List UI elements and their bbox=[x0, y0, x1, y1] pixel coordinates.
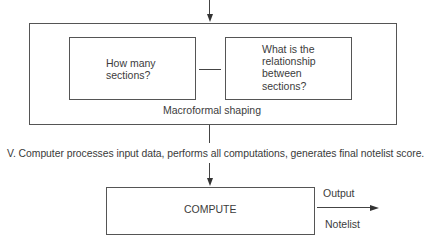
section-relationship-label: What is the relationship between section… bbox=[262, 43, 316, 92]
compute-label: COMPUTE bbox=[184, 203, 237, 215]
output-arrow-head-icon bbox=[370, 205, 379, 211]
macroformal-to-step-line bbox=[209, 125, 210, 143]
compute-input-arrow-head-icon bbox=[207, 178, 213, 186]
output-label: Output bbox=[323, 187, 355, 199]
section-connector-line bbox=[199, 69, 221, 70]
macroformal-shaping-title: Macroformal shaping bbox=[163, 104, 261, 116]
how-many-sections-label: How many sections? bbox=[106, 57, 156, 81]
output-arrow-shaft bbox=[317, 207, 371, 208]
step-v-caption: V. Computer processes input data, perfor… bbox=[7, 147, 424, 160]
notelist-label: Notelist bbox=[325, 218, 360, 230]
incoming-arrow-head-icon bbox=[207, 14, 213, 22]
